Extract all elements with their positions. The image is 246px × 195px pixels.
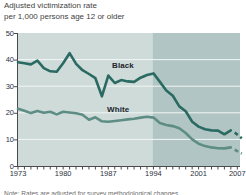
series-label-black: Black xyxy=(112,61,134,70)
plot-background-post-1994 xyxy=(152,33,240,166)
y-axis-label: 40 xyxy=(0,56,14,63)
series-label-white: White xyxy=(107,105,129,114)
x-axis-label: 2007 xyxy=(229,170,246,178)
x-axis-label: 1994 xyxy=(145,170,162,178)
x-axis-label: 1973 xyxy=(10,170,27,178)
y-axis-label: 20 xyxy=(0,109,14,116)
y-axis-label: 10 xyxy=(0,136,14,143)
plot-background-pre-1994 xyxy=(17,33,152,166)
x-axis-label: 1980 xyxy=(55,170,72,178)
x-axis-label: 2001 xyxy=(190,170,207,178)
x-axis-label: 1987 xyxy=(100,170,117,178)
plot-area xyxy=(0,0,246,195)
victimization-rate-chart: Adjusted victimization rate per 1,000 pe… xyxy=(0,0,246,195)
clipped-footnote: Note: Rates are adjusted for survey meth… xyxy=(4,190,180,195)
y-axis-label: 30 xyxy=(0,83,14,90)
y-axis-label: 50 xyxy=(0,30,14,37)
